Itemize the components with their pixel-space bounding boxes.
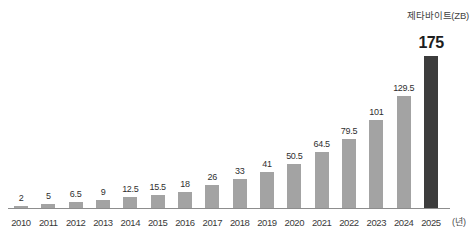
- bar-column: 18: [172, 23, 198, 208]
- bar: [151, 195, 165, 208]
- bar-column: 50.5: [281, 23, 307, 208]
- bar: [14, 206, 28, 208]
- bar-value-label: 129.5: [393, 83, 414, 94]
- bar: [397, 96, 411, 208]
- bar: [205, 185, 219, 208]
- x-axis-tick-label: 2020: [281, 217, 307, 228]
- bar-column: 26: [199, 23, 225, 208]
- bar-column: 129.5: [391, 23, 417, 208]
- bar-column: 33: [227, 23, 253, 208]
- bar-column: 41: [254, 23, 280, 208]
- x-axis-tick-label: 2023: [363, 217, 389, 228]
- bar-value-label: 101: [369, 107, 383, 118]
- bar-column: 15.5: [145, 23, 171, 208]
- bar-value-label: 175: [418, 34, 443, 52]
- bar-value-label: 33: [235, 166, 244, 177]
- bar-column: 64.5: [309, 23, 335, 208]
- bar-value-label: 64.5: [313, 139, 329, 150]
- bar-value-label: 79.5: [341, 126, 357, 137]
- bar-value-label: 26: [208, 172, 217, 183]
- bar-column: 175: [418, 23, 444, 208]
- x-axis-tick-label: 2016: [172, 217, 198, 228]
- bar-value-label: 15.5: [149, 182, 165, 193]
- x-axis-tick-label: 2025: [418, 217, 444, 228]
- x-axis-tick-label: 2022: [336, 217, 362, 228]
- bar: [178, 192, 192, 208]
- bar: [424, 56, 438, 208]
- x-axis-unit-label: (년): [452, 215, 466, 228]
- bar: [123, 197, 137, 208]
- bar: [96, 200, 110, 208]
- bar-value-label: 50.5: [286, 151, 302, 162]
- bar-value-label: 2: [19, 193, 24, 204]
- bar: [287, 164, 301, 208]
- bar-column: 79.5: [336, 23, 362, 208]
- bar-value-label: 18: [180, 179, 189, 190]
- x-axis-tick-label: 2024: [391, 217, 417, 228]
- x-axis-tick-label: 2015: [145, 217, 171, 228]
- x-axis-tick-label: 2017: [199, 217, 225, 228]
- x-axis-tick-label: 2018: [227, 217, 253, 228]
- bar: [260, 172, 274, 208]
- x-axis-tick-label: 2019: [254, 217, 280, 228]
- x-axis-tick-label: 2012: [63, 217, 89, 228]
- bar-chart: 제타바이트(ZB) (년) 22010520116.520129201312.5…: [0, 0, 475, 232]
- bar-value-label: 41: [262, 159, 271, 170]
- x-axis-tick-label: 2021: [309, 217, 335, 228]
- bar: [41, 204, 55, 208]
- bar-column: 2: [8, 23, 34, 208]
- bar: [342, 139, 356, 208]
- bar-value-label: 9: [101, 187, 106, 198]
- bar-column: 5: [35, 23, 61, 208]
- bar-column: 6.5: [63, 23, 89, 208]
- bar: [69, 202, 83, 208]
- bar-column: 12.5: [117, 23, 143, 208]
- bar-value-label: 12.5: [122, 184, 138, 195]
- x-axis-tick-label: 2014: [117, 217, 143, 228]
- x-axis-tick-label: 2013: [90, 217, 116, 228]
- bar-value-label: 5: [46, 191, 51, 202]
- bar: [233, 179, 247, 208]
- bar: [369, 120, 383, 208]
- x-axis-tick-label: 2011: [35, 217, 61, 228]
- bar-value-label: 6.5: [70, 189, 82, 200]
- x-axis-tick-label: 2010: [8, 217, 34, 228]
- bar-column: 101: [363, 23, 389, 208]
- bar: [315, 152, 329, 208]
- bar-column: 9: [90, 23, 116, 208]
- x-axis-line: [8, 208, 450, 209]
